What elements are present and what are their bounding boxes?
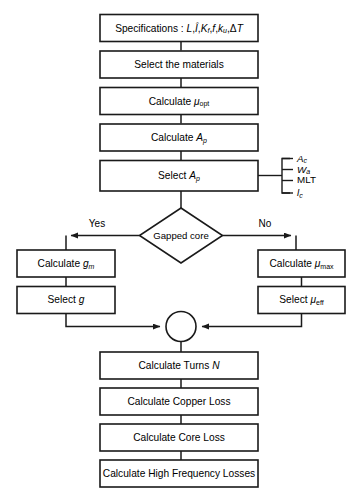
box-calculate-gm-label: Calculate gm [38, 258, 95, 270]
flowchart-svg: Specifications : L,Î,Kf,f,ku,ΔT Select t… [0, 0, 360, 497]
branch-label-yes: Yes [89, 218, 105, 229]
box-select-g-label: Select g [48, 294, 85, 305]
decision-gapped-core-label: Gapped core [153, 230, 208, 241]
connector-left-to-merge [66, 314, 160, 327]
box-select-materials-label: Select the materials [134, 59, 223, 70]
box-calculate-copper-loss-label: Calculate Copper Loss [127, 396, 230, 407]
box-calculate-turns-label: Calculate Turns N [139, 360, 221, 371]
box-calculate-core-loss-label: Calculate Core Loss [133, 432, 225, 443]
flowchart-canvas: Specifications : L,Î,Kf,f,ku,ΔT Select t… [0, 0, 360, 497]
merge-connector[interactable] [166, 312, 196, 342]
box-calculate-ap-label: Calculate Ap [151, 132, 207, 145]
side-output-mlt: MLT [297, 174, 316, 185]
bracket-spine [282, 159, 290, 194]
side-output-lc: lc [297, 187, 303, 199]
branch-label-no: No [259, 218, 272, 229]
box-calculate-hf-losses-label: Calculate High Frequency Losses [103, 468, 255, 479]
connector-right-to-merge [202, 314, 302, 327]
box-select-ap-label: Select Ap [158, 170, 200, 183]
